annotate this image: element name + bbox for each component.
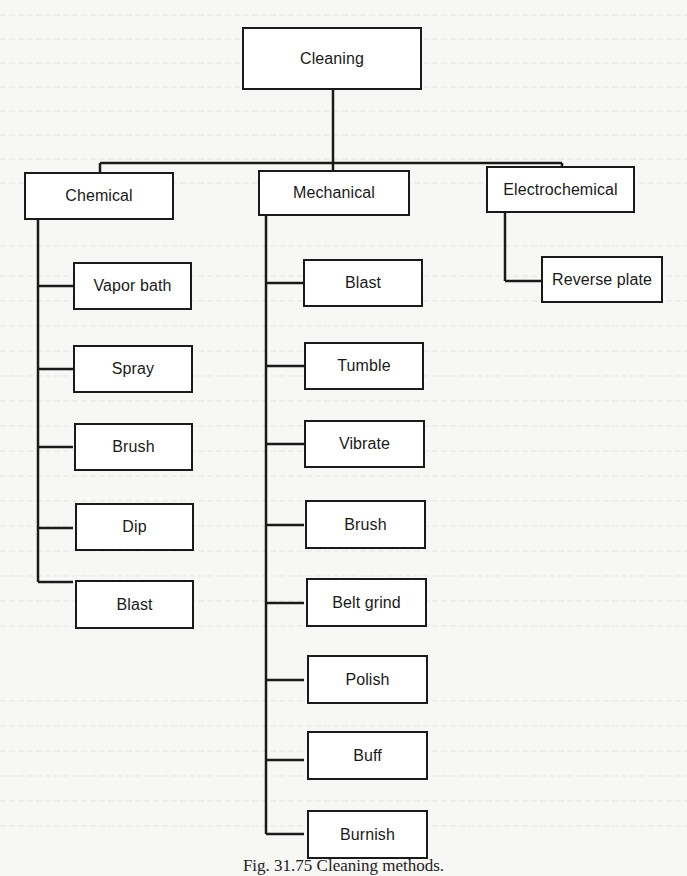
node-label: Electrochemical — [503, 181, 617, 199]
node-mechanical-tumble: Tumble — [304, 342, 424, 390]
node-mechanical-vibrate: Vibrate — [304, 420, 425, 468]
node-mechanical: Mechanical — [258, 170, 410, 216]
node-chemical-brush: Brush — [74, 423, 193, 471]
node-label: Dip — [122, 518, 146, 536]
node-label: Blast — [116, 596, 152, 614]
node-label: Reverse plate — [552, 271, 652, 289]
node-mechanical-buff: Buff — [307, 731, 428, 780]
node-chemical: Chemical — [24, 172, 174, 220]
node-label: Mechanical — [293, 184, 375, 202]
node-label: Brush — [112, 438, 154, 456]
node-chemical-blast: Blast — [75, 580, 194, 629]
node-label: Burnish — [340, 826, 395, 844]
node-mechanical-burnish: Burnish — [307, 810, 428, 859]
figure-caption: Fig. 31.75 Cleaning methods. — [0, 856, 687, 876]
node-label: Buff — [353, 747, 382, 765]
node-electrochemical: Electrochemical — [486, 166, 635, 213]
node-label: Belt grind — [332, 594, 401, 612]
node-label: Blast — [345, 274, 381, 292]
node-label: Vapor bath — [93, 277, 171, 295]
node-chemical-dip: Dip — [75, 503, 194, 551]
node-cleaning: Cleaning — [242, 27, 422, 90]
node-label: Chemical — [65, 187, 133, 205]
node-mechanical-polish: Polish — [307, 655, 428, 704]
node-label: Tumble — [337, 357, 390, 375]
node-mechanical-brush: Brush — [305, 500, 426, 549]
node-electrochemical-reverse-plate: Reverse plate — [541, 256, 663, 303]
node-label: Cleaning — [300, 50, 364, 68]
node-label: Polish — [345, 671, 389, 689]
node-chemical-vapor-bath: Vapor bath — [73, 262, 192, 310]
node-mechanical-belt-grind: Belt grind — [306, 578, 427, 627]
node-label: Brush — [344, 516, 386, 534]
node-label: Vibrate — [339, 435, 390, 453]
node-chemical-spray: Spray — [73, 345, 193, 393]
node-label: Spray — [112, 360, 154, 378]
node-mechanical-blast: Blast — [303, 259, 423, 307]
